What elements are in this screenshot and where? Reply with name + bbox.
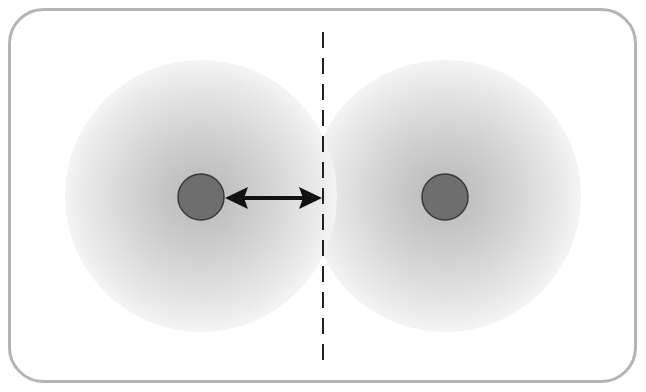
nucleus-left (178, 174, 224, 220)
atomic-radius-diagram (0, 0, 646, 392)
nucleus-right (422, 174, 468, 220)
